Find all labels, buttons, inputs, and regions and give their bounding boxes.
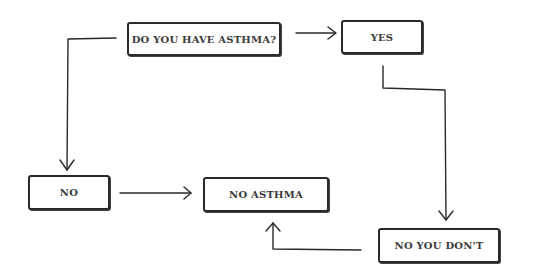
node-no-label: NO — [60, 187, 78, 198]
edge-no-you-dont-to-no-asthma — [266, 223, 361, 250]
node-question: DO YOU HAVE ASTHMA? — [127, 22, 281, 56]
node-yes-label: YES — [371, 32, 394, 43]
node-no-asthma: NO ASTHMA — [203, 177, 329, 212]
edge-question-to-no — [60, 38, 116, 170]
node-no-you-dont-label: NO YOU DON'T — [395, 240, 484, 251]
edge-no-to-no-asthma — [120, 187, 191, 199]
node-no-asthma-label: NO ASTHMA — [229, 189, 303, 200]
flowchart-canvas: DO YOU HAVE ASTHMA? YES NO NO ASTHMA NO … — [0, 0, 555, 278]
edge-question-to-yes — [296, 27, 336, 39]
node-yes: YES — [341, 20, 423, 54]
node-no-you-dont: NO YOU DON'T — [378, 228, 500, 263]
node-question-label: DO YOU HAVE ASTHMA? — [132, 34, 277, 45]
node-no: NO — [28, 175, 110, 210]
edge-yes-to-no-you-dont — [383, 66, 453, 220]
